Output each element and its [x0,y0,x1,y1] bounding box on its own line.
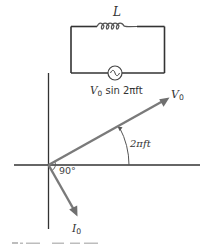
phase-angle-text: 2πft [130,138,151,149]
voltage-phasor-label: V0 [171,89,184,102]
current-phasor-subscript: 0 [76,227,81,236]
phase-angle-arc [120,128,130,166]
inductor-icon [97,23,137,29]
ac-source-icon [108,66,122,80]
source-expression: sin 2πft [102,85,142,96]
phase-angle-label: 2πft [130,139,151,149]
voltage-phasor-symbol: V [171,88,179,101]
source-voltage-symbol: V [90,84,98,96]
figure-drawing [0,0,208,244]
voltage-phasor-subscript: 0 [179,93,184,102]
voltage-phasor-arrow [49,98,170,166]
inductor-symbol: L [113,5,121,19]
right-angle-label: 90° [59,166,76,176]
source-label: V0 sin 2πft [90,85,143,97]
inductor-ac-circuit-figure: L V0 sin 2πft V0 2πft 90° I0 [0,0,208,244]
right-angle-text: 90° [59,165,76,176]
current-phasor-label: I0 [72,223,81,236]
inductor-label: L [113,6,121,18]
